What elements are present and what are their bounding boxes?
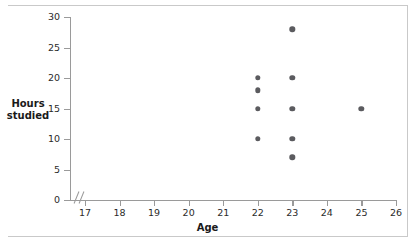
x-tick-label-25: 25 — [348, 208, 374, 218]
data-point — [290, 136, 295, 141]
x-tick-17 — [85, 200, 86, 206]
x-tick-label-24: 24 — [314, 208, 340, 218]
x-tick-label-20: 20 — [176, 208, 202, 218]
data-point — [255, 106, 260, 111]
y-tick-0 — [64, 200, 70, 201]
x-tick-label-23: 23 — [279, 208, 305, 218]
x-tick-label-17: 17 — [72, 208, 98, 218]
y-axis-line — [70, 17, 71, 201]
x-tick-23 — [292, 200, 293, 206]
scatter-plot-figure: 051015202530 17181920212223242526 Hours … — [0, 0, 415, 244]
y-tick-5 — [64, 170, 70, 171]
x-tick-25 — [361, 200, 362, 206]
x-tick-label-19: 19 — [141, 208, 167, 218]
x-tick-label-18: 18 — [107, 208, 133, 218]
data-point — [255, 75, 260, 80]
y-tick-label-30: 30 — [38, 12, 60, 22]
y-tick-label-25: 25 — [38, 43, 60, 53]
x-tick-22 — [258, 200, 259, 206]
data-point — [359, 106, 364, 111]
y-tick-30 — [64, 17, 70, 18]
y-tick-10 — [64, 139, 70, 140]
x-tick-18 — [120, 200, 121, 206]
data-point — [290, 26, 295, 31]
y-tick-15 — [64, 109, 70, 110]
data-point — [290, 106, 295, 111]
y-tick-20 — [64, 78, 70, 79]
x-axis-break-mark — [73, 191, 89, 205]
x-tick-label-22: 22 — [245, 208, 271, 218]
y-tick-label-0: 0 — [38, 195, 60, 205]
data-point — [255, 136, 260, 141]
y-tick-25 — [64, 48, 70, 49]
data-point — [255, 87, 260, 92]
y-axis-title: Hours studied — [2, 98, 54, 121]
y-tick-label-5: 5 — [38, 165, 60, 175]
x-tick-20 — [189, 200, 190, 206]
x-axis-title: Age — [0, 222, 415, 234]
x-tick-21 — [223, 200, 224, 206]
plot-area: 051015202530 17181920212223242526 Hours … — [0, 0, 415, 244]
data-point — [290, 75, 295, 80]
y-tick-label-20: 20 — [38, 73, 60, 83]
x-tick-label-21: 21 — [210, 208, 236, 218]
x-tick-label-26: 26 — [383, 208, 409, 218]
y-tick-label-10: 10 — [38, 134, 60, 144]
x-tick-19 — [154, 200, 155, 206]
data-point — [290, 155, 295, 160]
x-tick-26 — [396, 200, 397, 206]
x-tick-24 — [327, 200, 328, 206]
